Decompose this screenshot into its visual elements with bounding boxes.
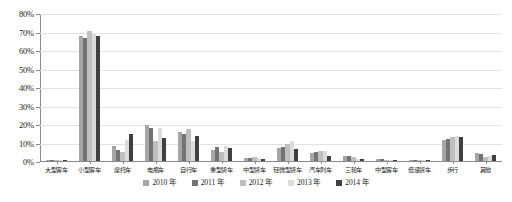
x-axis-label: 大型客车 — [40, 164, 73, 176]
bar-group — [205, 14, 238, 161]
y-tick-mark — [36, 33, 40, 34]
bar — [129, 134, 133, 161]
y-tick-mark — [36, 162, 40, 163]
bar-group — [40, 14, 73, 161]
bar-group — [304, 14, 337, 161]
bar — [459, 137, 463, 161]
bar-group — [172, 14, 205, 161]
y-tick-label: 20% — [19, 121, 34, 130]
legend-swatch-icon — [336, 180, 342, 186]
bar — [162, 138, 166, 161]
x-axis-line — [40, 161, 502, 162]
y-tick-mark — [36, 70, 40, 71]
y-tick-mark — [36, 125, 40, 126]
bar-group — [403, 14, 436, 161]
legend-item[interactable]: 2011 年 — [192, 179, 224, 187]
bar-group — [337, 14, 370, 161]
x-axis-label: 重型货车 — [205, 164, 238, 176]
y-tick-mark — [36, 107, 40, 108]
bar — [492, 155, 496, 161]
legend-label: 2012 年 — [249, 179, 272, 187]
x-axis-label: 轻微型货车 — [271, 164, 304, 176]
chart-legend: 2010 年2011 年2012 年2013 年2014 年 — [0, 179, 512, 187]
legend-swatch-icon — [192, 180, 198, 186]
x-axis-label: 电瓶车 — [139, 164, 172, 176]
bar-group — [139, 14, 172, 161]
bar — [195, 136, 199, 161]
x-axis-category-labels: 大型客车小型客车摩托车电瓶车自行车重型货车中型货车轻微型货车汽车列车三轮车中型客… — [40, 164, 502, 176]
legend-label: 2014 年 — [345, 179, 368, 187]
bar — [360, 159, 364, 161]
y-tick-label: 40% — [19, 84, 34, 93]
y-tick-mark — [36, 144, 40, 145]
plot-area — [40, 14, 502, 162]
x-axis-label: 摩托车 — [106, 164, 139, 176]
x-axis-label: 三轮车 — [337, 164, 370, 176]
legend-label: 2010 年 — [152, 179, 175, 187]
bar-group — [271, 14, 304, 161]
x-axis-label: 小型客车 — [73, 164, 106, 176]
legend-item[interactable]: 2010 年 — [143, 179, 175, 187]
bar-chart: 80%70%60%50%40%30%20%10%0% 大型客车小型客车摩托车电瓶… — [0, 0, 512, 202]
y-tick-label: 10% — [19, 139, 34, 148]
x-axis-label: 中型货车 — [238, 164, 271, 176]
legend-item[interactable]: 2014 年 — [336, 179, 368, 187]
x-axis-label: 汽车列车 — [304, 164, 337, 176]
legend-swatch-icon — [143, 180, 149, 186]
bar-group — [238, 14, 271, 161]
y-tick-label: 60% — [19, 47, 34, 56]
bar-group — [73, 14, 106, 161]
bar-group — [106, 14, 139, 161]
y-tick-mark — [36, 88, 40, 89]
bar-groups — [40, 14, 502, 161]
y-tick-label: 0% — [23, 158, 34, 167]
x-axis-label: 中型客车 — [370, 164, 403, 176]
legend-swatch-icon — [288, 180, 294, 186]
y-tick-label: 30% — [19, 102, 34, 111]
y-tick-label: 50% — [19, 65, 34, 74]
legend-item[interactable]: 2013 年 — [288, 179, 320, 187]
bar — [426, 160, 430, 161]
legend-label: 2013 年 — [297, 179, 320, 187]
y-tick-mark — [36, 14, 40, 15]
bar-group — [436, 14, 469, 161]
y-tick-label: 80% — [19, 10, 34, 19]
bar — [261, 159, 265, 161]
y-tick-label: 70% — [19, 28, 34, 37]
x-axis-label: 自行车 — [172, 164, 205, 176]
legend-item[interactable]: 2012 年 — [240, 179, 272, 187]
x-axis-label: 低速货车 — [403, 164, 436, 176]
bar — [393, 160, 397, 161]
bar — [96, 36, 100, 161]
bar — [63, 160, 67, 161]
x-axis-label: 其他 — [469, 164, 502, 176]
bar — [228, 148, 232, 161]
y-axis: 80%70%60%50%40%30%20%10%0% — [0, 14, 38, 162]
x-axis-label: 步行 — [436, 164, 469, 176]
y-tick-mark — [36, 51, 40, 52]
legend-swatch-icon — [240, 180, 246, 186]
legend-label: 2011 年 — [201, 179, 224, 187]
bar — [327, 156, 331, 162]
bar-group — [469, 14, 502, 161]
bar — [294, 149, 298, 161]
bar-group — [370, 14, 403, 161]
